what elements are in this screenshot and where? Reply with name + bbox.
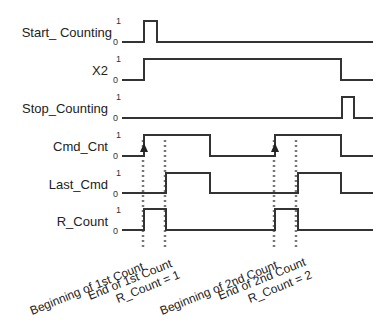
timing-diagram: Start_ Counting 1 0 X2 1 0 Stop_Counting… — [0, 0, 392, 336]
waveform — [122, 59, 373, 80]
signal-label: Start_ Counting — [22, 25, 112, 40]
rising-edge-arrow-icon — [140, 143, 148, 152]
signal-label: R_Count — [57, 214, 109, 229]
signal-r-count: R_Count 1 0 — [57, 205, 373, 236]
signal-label: Cmd_Cnt — [53, 139, 108, 154]
level-low-label: 0 — [113, 189, 118, 199]
level-high-label: 1 — [116, 130, 121, 140]
signal-label: Last_Cmd — [49, 177, 108, 192]
waveform — [122, 209, 373, 230]
signal-cmd-cnt: Cmd_Cnt 1 0 — [53, 130, 373, 161]
level-low-label: 0 — [113, 113, 118, 123]
waveform — [122, 173, 373, 193]
timing-diagram-canvas: Start_ Counting 1 0 X2 1 0 Stop_Counting… — [0, 0, 392, 336]
level-low-label: 0 — [113, 75, 118, 85]
signal-stop-counting: Stop_Counting 1 0 — [22, 92, 373, 123]
level-high-label: 1 — [116, 92, 121, 102]
level-high-label: 1 — [116, 54, 121, 64]
level-low-label: 0 — [113, 226, 118, 236]
waveform — [122, 21, 373, 42]
annotations: Beginning of 1st Count End of 1st Count … — [28, 255, 314, 318]
signal-last-cmd: Last_Cmd 1 0 — [49, 168, 373, 199]
level-high-label: 1 — [116, 205, 121, 215]
signal-x2: X2 1 0 — [92, 54, 373, 85]
rising-edge-arrow-icon — [271, 143, 279, 152]
level-low-label: 0 — [113, 151, 118, 161]
level-low-label: 0 — [113, 37, 118, 47]
waveform — [122, 97, 373, 118]
level-high-label: 1 — [116, 16, 121, 26]
waveform — [122, 135, 373, 156]
signal-start-counting: Start_ Counting 1 0 — [22, 16, 373, 47]
signal-label: X2 — [92, 63, 108, 78]
signal-label: Stop_Counting — [22, 101, 108, 116]
level-high-label: 1 — [116, 168, 121, 178]
